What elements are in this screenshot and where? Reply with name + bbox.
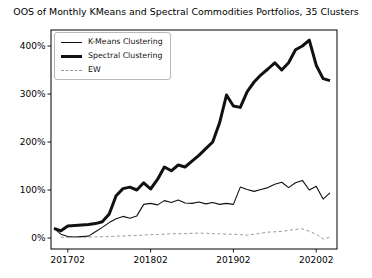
legend-item: K-Means Clustering — [61, 36, 163, 48]
legend-item: Spectral Clustering — [61, 50, 163, 62]
series-line-ew — [61, 229, 330, 239]
legend-line-sample — [61, 42, 82, 43]
x-tick-label: 201802 — [133, 255, 167, 265]
y-tick-label: 0% — [31, 233, 46, 243]
legend-line-sample — [61, 55, 82, 58]
legend-item: EW — [61, 64, 163, 76]
x-tick-label: 202002 — [299, 255, 333, 265]
figure: OOS of Monthly KMeans and Spectral Commo… — [0, 0, 372, 278]
legend-line-sample — [61, 70, 82, 71]
y-tick-label: 400% — [20, 41, 46, 51]
y-tick-label: 100% — [20, 185, 46, 195]
series-line-k-means-clustering — [54, 180, 330, 237]
y-tick-label: 200% — [20, 137, 46, 147]
x-tick-label: 201902 — [216, 255, 250, 265]
legend-label: K-Means Clustering — [88, 36, 163, 48]
legend-label: EW — [88, 64, 101, 76]
x-tick-label: 201702 — [51, 255, 85, 265]
legend-label: Spectral Clustering — [88, 50, 162, 62]
legend: K-Means ClusteringSpectral ClusteringEW — [54, 32, 171, 80]
y-tick-label: 300% — [20, 89, 46, 99]
